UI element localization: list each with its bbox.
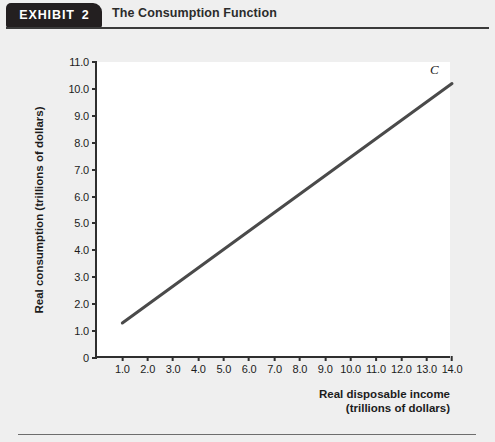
y-tick: 1.0	[57, 325, 97, 337]
x-tick-label: 1.0	[115, 363, 130, 375]
x-tick: 2.0	[140, 356, 155, 375]
x-axis-title-line2: (trillions of dollars)	[180, 401, 450, 415]
consumption-function-line	[97, 62, 452, 358]
x-tick-label: 2.0	[140, 363, 155, 375]
y-tick-label: 2.0	[57, 298, 89, 310]
y-tick: 8.0	[57, 137, 97, 149]
x-tick-label: 14.0	[442, 363, 463, 375]
y-tick-label: 8.0	[57, 137, 89, 149]
y-tick-label: 5.0	[57, 217, 89, 229]
exhibit-number: 2	[82, 9, 89, 22]
exhibit-tab: EXHIBIT 2	[6, 3, 102, 28]
y-tick-label: 10.0	[57, 83, 89, 95]
chart-figure: Real consumption (trillions of dollars) …	[0, 30, 495, 442]
x-tick: 13.0	[416, 356, 437, 375]
y-tick: 6.0	[57, 191, 97, 203]
curve-label-c: C	[430, 62, 439, 78]
y-axis-title: Real consumption (trillions of dollars)	[30, 62, 48, 358]
x-tick: 11.0	[366, 356, 386, 375]
x-tick-label: 5.0	[216, 363, 231, 375]
x-axis-title: Real disposable income (trillions of dol…	[180, 387, 450, 415]
x-tick-label: 3.0	[166, 363, 181, 375]
y-tick: 11.0	[57, 56, 97, 68]
y-tick-label: 4.0	[57, 244, 89, 256]
y-tick: 4.0	[57, 244, 97, 256]
x-tick-label: 4.0	[191, 363, 206, 375]
y-tick: 9.0	[57, 110, 97, 122]
exhibit-title: The Consumption Function	[112, 6, 277, 20]
exhibit-label: EXHIBIT	[19, 9, 75, 22]
x-tick-label: 12.0	[391, 363, 412, 375]
x-tick-label: 10.0	[340, 363, 361, 375]
x-tick-label: 7.0	[267, 363, 282, 375]
y-tick: 0	[57, 352, 97, 364]
x-tick: 9.0	[318, 356, 333, 375]
header-divider	[6, 27, 489, 29]
x-tick: 8.0	[292, 356, 307, 375]
plot-area: 01.02.03.04.05.06.07.08.09.010.011.0 1.0…	[95, 62, 450, 358]
x-tick: 3.0	[166, 356, 181, 375]
y-tick-label: 0	[57, 352, 89, 364]
x-tick-label: 8.0	[292, 363, 307, 375]
x-tick: 7.0	[267, 356, 282, 375]
x-axis-title-line1: Real disposable income	[180, 387, 450, 401]
x-tick: 6.0	[242, 356, 257, 375]
y-tick-label: 7.0	[57, 164, 89, 176]
y-tick-label: 6.0	[57, 191, 89, 203]
y-tick: 3.0	[57, 271, 97, 283]
x-tick: 5.0	[216, 356, 231, 375]
footer-divider	[18, 434, 476, 435]
y-tick-label: 3.0	[57, 271, 89, 283]
y-tick-label: 11.0	[57, 56, 89, 68]
x-tick: 14.0	[442, 356, 463, 375]
y-tick: 2.0	[57, 298, 97, 310]
y-tick: 7.0	[57, 164, 97, 176]
x-tick: 4.0	[191, 356, 206, 375]
x-tick: 10.0	[340, 356, 361, 375]
y-tick: 10.0	[57, 83, 97, 95]
x-tick: 1.0	[115, 356, 130, 375]
x-tick-label: 6.0	[242, 363, 257, 375]
exhibit-header: EXHIBIT 2 The Consumption Function	[0, 0, 495, 30]
y-tick-label: 9.0	[57, 110, 89, 122]
x-tick-label: 11.0	[366, 363, 386, 375]
x-tick-label: 13.0	[416, 363, 437, 375]
y-tick-label: 1.0	[57, 325, 89, 337]
x-tick: 12.0	[391, 356, 412, 375]
y-tick: 5.0	[57, 217, 97, 229]
x-tick-label: 9.0	[318, 363, 333, 375]
